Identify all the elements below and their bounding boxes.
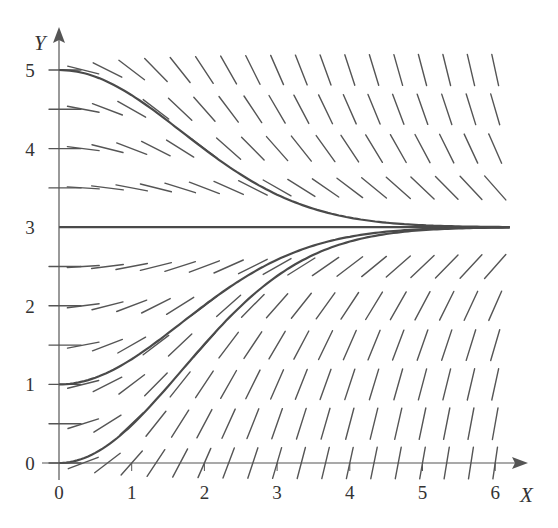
slope-segment <box>93 104 123 115</box>
slope-segment <box>436 177 459 200</box>
slope-segment <box>267 137 288 161</box>
slope-segment <box>269 96 285 124</box>
slope-segment <box>319 95 333 124</box>
slope-segment <box>242 137 265 160</box>
x-tick-label: 1 <box>127 482 137 503</box>
slope-segment <box>267 294 288 318</box>
slope-segment <box>219 332 238 358</box>
slope-segment <box>419 408 426 439</box>
slope-segment <box>489 291 502 320</box>
slope-segment <box>93 339 123 350</box>
slope-segment <box>466 94 476 125</box>
slope-segment <box>170 372 190 397</box>
slope-segment <box>146 411 166 436</box>
x-tick-label: 3 <box>272 482 282 503</box>
slope-segment <box>460 176 482 199</box>
slope-segment <box>288 179 315 196</box>
slope-segment <box>93 377 122 391</box>
slope-segment <box>269 331 285 359</box>
slope-segment <box>167 140 194 157</box>
slope-segment <box>369 369 378 400</box>
slope-segment <box>366 135 383 162</box>
slope-segment <box>316 136 335 162</box>
slope-segment <box>271 370 284 399</box>
slope-segment <box>417 94 428 124</box>
slope-segment <box>194 97 215 121</box>
slope-segment <box>291 293 311 318</box>
slope-field-segments <box>49 54 506 478</box>
slope-segment <box>343 95 356 124</box>
slope-segment <box>485 176 506 200</box>
slope-segment <box>390 292 406 320</box>
slope-segment <box>417 330 428 360</box>
slope-segment <box>169 334 192 356</box>
slope-segment <box>320 55 331 85</box>
slope-segment <box>444 408 450 439</box>
slope-segment <box>143 100 169 119</box>
slope-segment <box>320 369 331 399</box>
slope-segment <box>390 135 406 163</box>
slope-segment <box>491 94 500 125</box>
slope-segment <box>386 256 410 277</box>
slope-segment <box>221 56 237 84</box>
slope-segment <box>492 408 498 440</box>
slope-segment <box>492 369 499 400</box>
slope-segment <box>442 94 452 124</box>
slope-segment <box>197 410 212 438</box>
slope-segment <box>467 54 474 85</box>
slope-segment <box>346 408 354 439</box>
slope-segment <box>214 260 243 273</box>
y-tick-label: 3 <box>25 217 35 238</box>
y-tick-label: 2 <box>25 296 35 317</box>
slope-segment <box>491 330 500 361</box>
slope-segment <box>172 410 189 437</box>
x-tick-label: 0 <box>54 482 64 503</box>
slope-segment <box>263 180 291 196</box>
y-tick-label: 0 <box>25 453 35 474</box>
slope-segment <box>369 55 378 86</box>
x-axis-label: X <box>519 483 534 507</box>
slope-segment <box>242 294 265 317</box>
slope-segment <box>489 134 502 163</box>
slope-segment <box>440 292 454 321</box>
slope-segment <box>393 94 404 124</box>
slope-field-chart: 0123456 012345 X Y <box>0 0 558 528</box>
slope-segment <box>393 330 404 360</box>
slope-segment <box>272 409 283 439</box>
slope-segment <box>415 135 430 163</box>
slope-segment <box>395 408 402 439</box>
slope-segment <box>343 331 356 360</box>
slope-segment <box>368 95 380 125</box>
slope-segment <box>294 331 309 359</box>
slope-segment <box>143 335 169 354</box>
slope-segment <box>119 375 145 394</box>
slope-segment <box>319 331 333 360</box>
slope-segment <box>341 293 359 320</box>
slope-segment <box>440 134 454 163</box>
y-tick-label: 5 <box>25 60 35 81</box>
slope-segment <box>464 291 478 320</box>
slope-segment <box>466 330 476 361</box>
x-tick-label: 2 <box>200 482 210 503</box>
slope-segment <box>394 369 403 400</box>
slope-segment <box>214 181 243 194</box>
slope-segment <box>247 409 259 439</box>
slope-segment <box>485 255 506 279</box>
slope-segment <box>312 179 338 197</box>
slope-segment <box>362 178 387 198</box>
slope-segment <box>443 369 451 400</box>
x-tick-label: 6 <box>490 482 500 503</box>
slope-segment <box>167 297 194 314</box>
slope-segment <box>246 370 260 399</box>
slope-segment <box>196 371 214 398</box>
slope-segment <box>316 293 335 319</box>
slope-segment <box>345 369 355 399</box>
slope-segment <box>368 330 380 360</box>
slope-segment <box>244 332 262 359</box>
solution-curves <box>59 70 510 463</box>
slope-segment <box>415 292 430 320</box>
slope-segment <box>222 409 235 438</box>
slope-segment <box>217 138 241 159</box>
slope-segment <box>362 256 387 276</box>
slope-segment <box>169 98 192 120</box>
